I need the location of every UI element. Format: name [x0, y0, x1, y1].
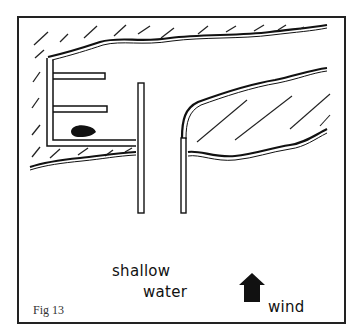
label-wind: wind — [268, 298, 305, 316]
figure-caption: Fig 13 — [33, 303, 64, 318]
wind-arrow-icon — [239, 273, 265, 302]
hatching-top-left — [32, 25, 304, 158]
label-water: water — [143, 283, 187, 301]
right-lower-shoreline — [188, 129, 327, 160]
pier-left — [138, 83, 144, 213]
label-shallow: shallow — [112, 262, 170, 280]
lower-left-shoreline — [30, 152, 136, 170]
boat — [71, 125, 96, 137]
hatching-right — [197, 94, 330, 142]
top-shoreline — [48, 25, 327, 60]
pier-right — [181, 138, 186, 213]
right-upper-shoreline — [182, 68, 327, 139]
